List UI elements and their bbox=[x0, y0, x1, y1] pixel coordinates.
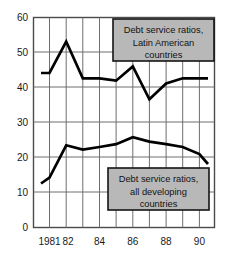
y-tick-30: 30 bbox=[17, 117, 29, 128]
x-tick-84: 84 bbox=[94, 236, 106, 247]
all-developing-callout-line-2: all developing bbox=[130, 187, 187, 197]
all-developing-callout: Debt service ratios, all developing coun… bbox=[108, 168, 209, 210]
all-developing-callout-line-1: Debt service ratios, bbox=[119, 174, 199, 184]
y-tick-10: 10 bbox=[17, 187, 29, 198]
x-tick-1981: 1981 bbox=[38, 236, 61, 247]
x-tick-90: 90 bbox=[194, 236, 206, 247]
latin-america-callout: Debt service ratios, Latin American coun… bbox=[113, 19, 214, 61]
x-tick-86: 86 bbox=[127, 236, 139, 247]
y-tick-40: 40 bbox=[17, 82, 29, 93]
latin-america-callout-line-2: Latin American bbox=[133, 38, 195, 48]
y-tick-60: 60 bbox=[17, 12, 29, 23]
x-tick-82: 82 bbox=[62, 236, 74, 247]
debt-service-ratios-chart: 60 50 40 30 20 10 0 1981 82 84 86 88 90 … bbox=[0, 0, 229, 258]
x-tick-88: 88 bbox=[161, 236, 173, 247]
y-tick-50: 50 bbox=[17, 47, 29, 58]
all-developing-callout-line-3: countries bbox=[140, 199, 178, 209]
latin-america-callout-line-1: Debt service ratios, bbox=[124, 25, 204, 35]
y-tick-0: 0 bbox=[22, 222, 28, 233]
latin-america-callout-line-3: countries bbox=[145, 50, 183, 60]
y-tick-20: 20 bbox=[17, 152, 29, 163]
